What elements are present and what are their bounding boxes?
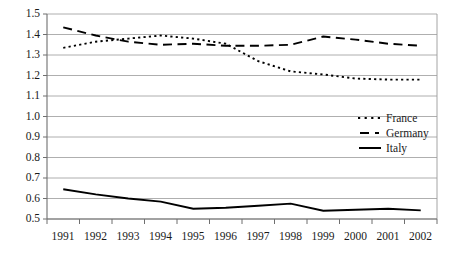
y-tick-label: 1.3 bbox=[14, 49, 40, 61]
dotted-line-swatch bbox=[357, 112, 383, 124]
x-tick-label: 1999 bbox=[305, 231, 341, 243]
x-tick-label: 1995 bbox=[175, 231, 211, 243]
x-tick-label: 1997 bbox=[240, 231, 276, 243]
legend: France Germany Italy bbox=[357, 110, 439, 155]
legend-label-italy: Italy bbox=[383, 142, 407, 154]
legend-label-germany: Germany bbox=[383, 127, 429, 139]
x-tick-label: 1993 bbox=[110, 231, 146, 243]
x-tick-label: 2001 bbox=[370, 231, 406, 243]
y-tick-label: 0.9 bbox=[14, 131, 40, 143]
legend-item-france[interactable]: France bbox=[357, 110, 439, 125]
y-tick-label: 0.6 bbox=[14, 193, 40, 205]
y-tick-label: 0.7 bbox=[14, 172, 40, 184]
solid-line-swatch bbox=[357, 142, 383, 154]
x-tick-label: 2002 bbox=[403, 231, 439, 243]
x-tick-label: 2000 bbox=[338, 231, 374, 243]
y-tick-label: 1.4 bbox=[14, 29, 40, 41]
y-axis-ticks bbox=[43, 14, 47, 219]
x-axis-ticks bbox=[47, 219, 437, 224]
y-tick-label: 0.8 bbox=[14, 152, 40, 164]
x-tick-label: 1992 bbox=[78, 231, 114, 243]
legend-item-italy[interactable]: Italy bbox=[357, 140, 439, 155]
y-tick-label: 1.2 bbox=[14, 70, 40, 82]
y-tick-label: 0.5 bbox=[14, 213, 40, 225]
x-tick-label: 1998 bbox=[273, 231, 309, 243]
x-tick-label: 1994 bbox=[143, 231, 179, 243]
y-tick-label: 1.5 bbox=[14, 8, 40, 20]
dashed-line-swatch bbox=[357, 127, 383, 139]
y-tick-label: 1.1 bbox=[14, 90, 40, 102]
legend-item-germany[interactable]: Germany bbox=[357, 125, 439, 140]
y-tick-label: 1.0 bbox=[14, 111, 40, 123]
legend-label-france: France bbox=[383, 112, 417, 124]
x-tick-label: 1991 bbox=[45, 231, 81, 243]
x-tick-label: 1996 bbox=[208, 231, 244, 243]
line-chart: 1.5 1.4 1.3 1.2 1.1 1.0 0.9 0.8 0.7 0.6 … bbox=[0, 0, 462, 259]
